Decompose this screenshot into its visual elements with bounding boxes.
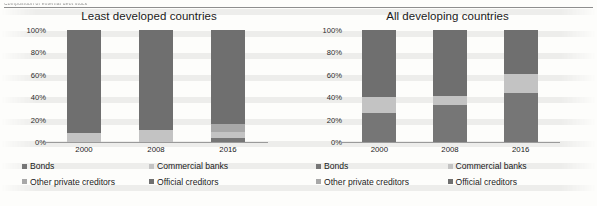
y-axis-tick-label: 0% bbox=[35, 138, 46, 147]
x-axis-tick-label: 2008 bbox=[441, 145, 458, 154]
bar-segment bbox=[67, 30, 101, 133]
legend-swatch-icon bbox=[316, 164, 321, 169]
legend-item-label: Commercial banks bbox=[157, 162, 228, 171]
chart-title: All developing countries bbox=[298, 10, 597, 22]
legend-item[interactable]: Other private creditors bbox=[316, 178, 448, 187]
legend-item[interactable]: Commercial banks bbox=[448, 162, 580, 171]
legend-item[interactable]: Bonds bbox=[22, 162, 149, 171]
x-axis-tick-label: 2016 bbox=[512, 145, 529, 154]
y-axis-tick-label: 20% bbox=[327, 115, 342, 124]
legend-item-label: Bonds bbox=[324, 162, 348, 171]
legend-swatch-icon bbox=[316, 179, 321, 184]
bar-segment bbox=[139, 130, 173, 142]
plot-area bbox=[48, 30, 264, 142]
legend-item[interactable]: Commercial banks bbox=[149, 162, 276, 171]
bar-segment bbox=[139, 30, 173, 130]
bar-segment bbox=[67, 133, 101, 142]
legend-swatch-icon bbox=[149, 164, 154, 169]
legend-swatch-icon bbox=[22, 179, 27, 184]
y-axis-tick-label: 60% bbox=[31, 70, 46, 79]
stacked-bar[interactable] bbox=[139, 30, 173, 142]
figure-container: Least developed countries 0%20%40%60%80%… bbox=[0, 8, 597, 206]
legend-item[interactable]: Bonds bbox=[316, 162, 448, 171]
y-axis-tick-label: 60% bbox=[327, 70, 342, 79]
bar-segment bbox=[433, 96, 467, 105]
x-axis-tick-label: 2000 bbox=[371, 145, 388, 154]
x-axis-line bbox=[342, 142, 560, 143]
bar-segment bbox=[433, 105, 467, 142]
y-axis-tick-label: 40% bbox=[31, 93, 46, 102]
chart-legend: BondsCommercial banksOther private credi… bbox=[0, 162, 298, 186]
bar-segment bbox=[211, 124, 245, 132]
y-axis-tick-label: 0% bbox=[331, 138, 342, 147]
y-axis-tick-label: 40% bbox=[327, 93, 342, 102]
bar-segment bbox=[362, 113, 396, 142]
chart-panel-all-developing: All developing countries 0%20%40%60%80%1… bbox=[298, 8, 597, 206]
chart-panel-least-developed: Least developed countries 0%20%40%60%80%… bbox=[0, 8, 298, 206]
y-axis-tick-label: 80% bbox=[327, 48, 342, 57]
bar-segment bbox=[433, 30, 467, 96]
chart-title: Least developed countries bbox=[0, 10, 298, 22]
legend-swatch-icon bbox=[22, 164, 27, 169]
legend-item[interactable]: Official creditors bbox=[448, 178, 580, 187]
bar-segment bbox=[211, 138, 245, 142]
legend-swatch-icon bbox=[448, 164, 453, 169]
legend-swatch-icon bbox=[149, 179, 154, 184]
legend-item-label: Official creditors bbox=[157, 178, 218, 187]
bar-segment bbox=[362, 97, 396, 113]
y-axis-tick-label: 100% bbox=[27, 26, 46, 35]
bar-segment bbox=[504, 93, 538, 142]
x-axis-tick-label: 2000 bbox=[75, 145, 92, 154]
legend-item-label: Official creditors bbox=[456, 178, 517, 187]
chart-legend: BondsCommercial banksOther private credi… bbox=[298, 162, 597, 186]
legend-item-label: Other private creditors bbox=[324, 178, 409, 187]
plot-area bbox=[344, 30, 556, 142]
legend-item-label: Other private creditors bbox=[30, 178, 115, 187]
y-axis-labels: 0%20%40%60%80%100% bbox=[302, 30, 342, 142]
x-axis-tick-label: 2016 bbox=[219, 145, 236, 154]
bar-segment bbox=[504, 30, 538, 74]
y-axis-tick-label: 100% bbox=[323, 26, 342, 35]
caption-fragment: Composition of external debt stock bbox=[4, 0, 88, 6]
bar-segment bbox=[211, 30, 245, 124]
x-axis-labels: 200020082016 bbox=[48, 145, 264, 157]
x-axis-tick-label: 2008 bbox=[147, 145, 164, 154]
stacked-bar[interactable] bbox=[433, 30, 467, 142]
stacked-bar[interactable] bbox=[211, 30, 245, 142]
bar-segment bbox=[362, 30, 396, 97]
legend-item[interactable]: Other private creditors bbox=[22, 178, 149, 187]
stacked-bar[interactable] bbox=[504, 30, 538, 142]
x-axis-labels: 200020082016 bbox=[344, 145, 556, 157]
y-axis-labels: 0%20%40%60%80%100% bbox=[6, 30, 46, 142]
x-axis-line bbox=[46, 142, 268, 143]
legend-item[interactable]: Official creditors bbox=[149, 178, 276, 187]
bar-segment bbox=[504, 74, 538, 93]
legend-item-label: Bonds bbox=[30, 162, 54, 171]
stacked-bar[interactable] bbox=[67, 30, 101, 142]
y-axis-tick-label: 80% bbox=[31, 48, 46, 57]
y-axis-tick-label: 20% bbox=[31, 115, 46, 124]
stacked-bar[interactable] bbox=[362, 30, 396, 142]
legend-swatch-icon bbox=[448, 179, 453, 184]
legend-item-label: Commercial banks bbox=[456, 162, 527, 171]
